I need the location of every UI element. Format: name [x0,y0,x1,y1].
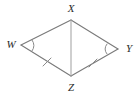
vertex-label-z: Z [68,81,75,93]
geometry-figure: X W Y Z [0,0,139,97]
vertex-label-w: W [6,38,16,50]
figure-canvas: X W Y Z [0,0,139,97]
vertex-label-x: X [67,2,76,14]
